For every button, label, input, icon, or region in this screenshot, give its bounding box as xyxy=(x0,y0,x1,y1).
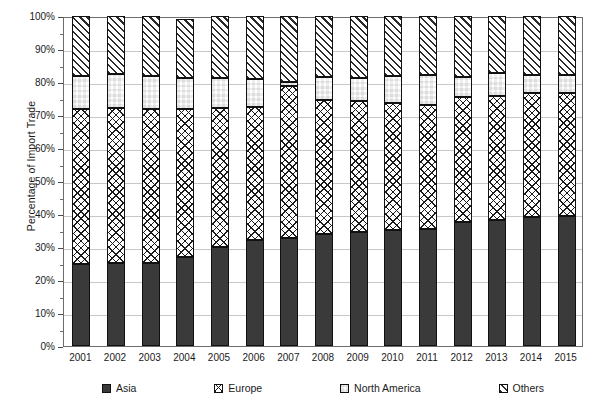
legend-item-label: Others xyxy=(513,382,545,394)
bar-segment-asia[interactable] xyxy=(384,230,402,346)
bar-segment-asia[interactable] xyxy=(454,222,472,346)
x-axis-tick-label: 2003 xyxy=(132,352,167,363)
bar-segment-others[interactable] xyxy=(523,16,541,75)
chart-legend: AsiaEuropeNorth AmericaOthers xyxy=(63,378,583,398)
bar-2006[interactable] xyxy=(246,16,264,346)
bar-segment-europe[interactable] xyxy=(176,109,194,257)
y-axis-tick-label: 20% xyxy=(14,275,55,286)
bar-segment-asia[interactable] xyxy=(488,220,506,346)
bar-segment-others[interactable] xyxy=(384,16,402,76)
bar-segment-asia[interactable] xyxy=(315,234,333,346)
bar-segment-europe[interactable] xyxy=(419,105,437,229)
bar-segment-others[interactable] xyxy=(558,16,576,75)
bar-segment-north-america[interactable] xyxy=(142,76,160,109)
bar-2007[interactable] xyxy=(280,16,298,346)
legend-item-north-america[interactable]: North America xyxy=(340,382,421,394)
bar-segment-others[interactable] xyxy=(488,16,506,73)
bar-2012[interactable] xyxy=(454,16,472,346)
bar-segment-asia[interactable] xyxy=(280,238,298,346)
bar-segment-europe[interactable] xyxy=(72,109,90,264)
bar-segment-asia[interactable] xyxy=(350,232,368,346)
bar-segment-north-america[interactable] xyxy=(350,78,368,101)
bar-segment-others[interactable] xyxy=(176,19,194,77)
bar-segment-europe[interactable] xyxy=(558,93,576,216)
x-axis-tick-label: 2014 xyxy=(514,352,549,363)
y-axis-tick-label: 0% xyxy=(14,341,55,352)
diagonal-hatch-swatch-icon xyxy=(499,384,508,393)
bar-2005[interactable] xyxy=(211,16,229,346)
bar-2002[interactable] xyxy=(107,16,125,346)
bar-segment-north-america[interactable] xyxy=(488,73,506,96)
stacked-bar-chart: Percentage of Import Trade 0%10%20%30%40… xyxy=(0,0,598,406)
bar-segment-others[interactable] xyxy=(142,16,160,76)
bar-segment-others[interactable] xyxy=(246,16,264,79)
y-axis-tick-label: 30% xyxy=(14,242,55,253)
y-axis-tick-label: 50% xyxy=(14,176,55,187)
bar-segment-asia[interactable] xyxy=(211,247,229,346)
bar-2009[interactable] xyxy=(350,16,368,346)
x-axis-tick-label: 2011 xyxy=(410,352,445,363)
y-axis-tick-label: 80% xyxy=(14,77,55,88)
bar-segment-north-america[interactable] xyxy=(107,74,125,108)
bar-segment-north-america[interactable] xyxy=(558,75,576,92)
x-axis-tick-label: 2010 xyxy=(375,352,410,363)
plot-area xyxy=(63,17,583,347)
bar-segment-others[interactable] xyxy=(107,16,125,74)
bar-segment-asia[interactable] xyxy=(419,229,437,346)
bar-2008[interactable] xyxy=(315,16,333,346)
bar-segment-north-america[interactable] xyxy=(72,76,90,109)
bar-segment-europe[interactable] xyxy=(523,93,541,217)
bar-segment-asia[interactable] xyxy=(176,257,194,346)
bar-segment-asia[interactable] xyxy=(523,217,541,346)
bar-segment-asia[interactable] xyxy=(558,216,576,346)
bar-segment-asia[interactable] xyxy=(142,263,160,346)
bar-segment-north-america[interactable] xyxy=(384,76,402,103)
bar-segment-north-america[interactable] xyxy=(419,75,437,105)
bar-segment-europe[interactable] xyxy=(384,103,402,230)
bar-segment-north-america[interactable] xyxy=(523,75,541,92)
legend-item-label: North America xyxy=(354,382,421,394)
bar-segment-others[interactable] xyxy=(454,16,472,77)
bar-segment-north-america[interactable] xyxy=(211,78,229,108)
bar-2010[interactable] xyxy=(384,16,402,346)
bar-2004[interactable] xyxy=(176,16,194,346)
y-axis-tick-label: 70% xyxy=(14,110,55,121)
bar-segment-north-america[interactable] xyxy=(315,77,333,100)
x-axis-tick-label: 2013 xyxy=(479,352,514,363)
bar-2011[interactable] xyxy=(419,16,437,346)
bar-2014[interactable] xyxy=(523,16,541,346)
bar-segment-others[interactable] xyxy=(211,16,229,78)
bar-segment-north-america[interactable] xyxy=(246,79,264,107)
bar-segment-others[interactable] xyxy=(419,16,437,75)
bar-segment-north-america[interactable] xyxy=(280,82,298,86)
bar-segment-europe[interactable] xyxy=(107,108,125,262)
bar-segment-europe[interactable] xyxy=(454,97,472,222)
bar-segment-asia[interactable] xyxy=(107,263,125,346)
x-axis-tick-label: 2006 xyxy=(236,352,271,363)
bar-2013[interactable] xyxy=(488,16,506,346)
bar-segment-europe[interactable] xyxy=(315,100,333,234)
bar-segment-north-america[interactable] xyxy=(176,78,194,109)
legend-item-label: Europe xyxy=(228,382,262,394)
legend-item-europe[interactable]: Europe xyxy=(214,382,262,394)
bar-segment-others[interactable] xyxy=(315,16,333,77)
bar-segment-others[interactable] xyxy=(350,16,368,78)
bar-segment-others[interactable] xyxy=(280,16,298,82)
bar-segment-europe[interactable] xyxy=(280,86,298,238)
bar-2015[interactable] xyxy=(558,16,576,346)
bar-segment-europe[interactable] xyxy=(350,101,368,232)
bar-segment-others[interactable] xyxy=(72,16,90,76)
x-axis-tick-label: 2015 xyxy=(548,352,583,363)
bar-segment-asia[interactable] xyxy=(72,264,90,346)
bar-segment-north-america[interactable] xyxy=(454,77,472,97)
bar-segment-europe[interactable] xyxy=(142,109,160,263)
bar-segment-europe[interactable] xyxy=(488,96,506,220)
legend-item-asia[interactable]: Asia xyxy=(102,382,136,394)
legend-item-others[interactable]: Others xyxy=(499,382,545,394)
bar-segment-europe[interactable] xyxy=(211,108,229,247)
bar-2001[interactable] xyxy=(72,16,90,346)
y-axis-tick-label: 40% xyxy=(14,209,55,220)
bar-segment-asia[interactable] xyxy=(246,240,264,346)
bar-2003[interactable] xyxy=(142,16,160,346)
bar-segment-europe[interactable] xyxy=(246,107,264,240)
